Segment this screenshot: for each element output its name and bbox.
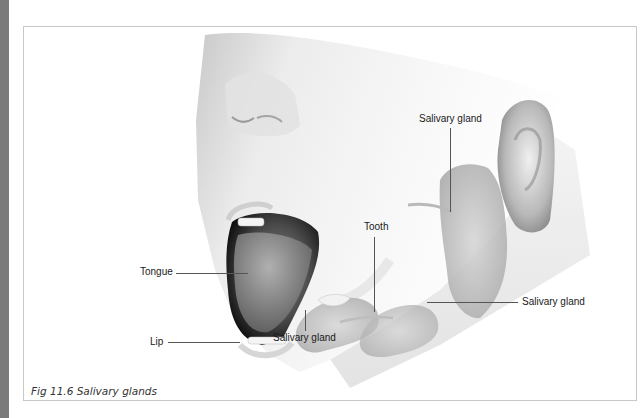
salivary-gland-bottom-leader-line (305, 310, 306, 331)
label-salivary-gland-right: Salivary gland (522, 296, 585, 308)
salivary-glands-illustration (0, 0, 644, 418)
label-tooth: Tooth (364, 221, 388, 233)
figure-caption: Fig 11.6 Salivary glands (31, 385, 157, 397)
label-lip: Lip (150, 336, 163, 348)
tooth-leader-line (374, 237, 375, 312)
label-tongue: Tongue (140, 266, 173, 278)
salivary-gland-top-leader-line (450, 128, 451, 212)
salivary-gland-right-leader-line (427, 302, 518, 303)
label-salivary-gland-top: Salivary gland (419, 113, 482, 125)
lip-leader-line (168, 342, 240, 343)
tongue-leader-line (176, 273, 248, 274)
label-salivary-gland-bottom: Salivary gland (273, 332, 336, 344)
